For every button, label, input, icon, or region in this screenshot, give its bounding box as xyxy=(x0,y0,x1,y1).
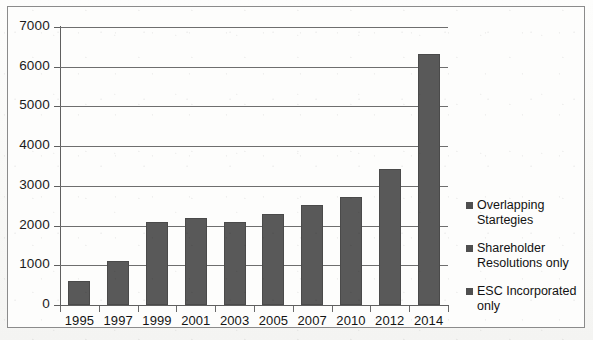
x-axis-label-1995: 1995 xyxy=(60,313,99,328)
x-axis-tick-4 xyxy=(215,306,216,312)
x-axis-tick-5 xyxy=(254,306,255,312)
x-axis-tick-8 xyxy=(370,306,371,312)
x-axis-tick-9 xyxy=(409,306,410,312)
bar-slot-2012 xyxy=(370,27,409,305)
legend-label-0: OverlappingStartegies xyxy=(477,198,544,227)
bar-slot-2005 xyxy=(254,27,293,305)
x-axis-label-1999: 1999 xyxy=(138,313,177,328)
bar-2001 xyxy=(185,218,207,305)
bar-slot-2001 xyxy=(176,27,215,305)
bar-slot-2014 xyxy=(409,27,448,305)
x-axis-label-2010: 2010 xyxy=(332,313,371,328)
x-axis-label-2012: 2012 xyxy=(370,313,409,328)
bar-2010 xyxy=(340,197,362,305)
x-axis-label-2005: 2005 xyxy=(254,313,293,328)
bar-2014 xyxy=(418,54,440,305)
y-axis-label-0: 0 xyxy=(4,296,50,311)
bar-2012 xyxy=(379,169,401,305)
x-axis-label-2003: 2003 xyxy=(215,313,254,328)
bar-slot-2003 xyxy=(215,27,254,305)
x-axis-tick-1 xyxy=(99,306,100,312)
bar-1995 xyxy=(68,281,90,305)
legend-swatch-icon-1 xyxy=(466,245,473,252)
legend-item-2: ESC Incorporatedonly xyxy=(466,284,582,313)
x-axis-ticks xyxy=(60,306,448,312)
bar-2005 xyxy=(262,214,284,305)
chart-legend: OverlappingStartegiesShareholderResoluti… xyxy=(466,198,582,327)
y-axis-label-7000: 7000 xyxy=(4,18,50,33)
bar-series xyxy=(60,27,448,305)
bar-slot-1997 xyxy=(99,27,138,305)
x-axis-tick-2 xyxy=(138,306,139,312)
x-axis-tick-0 xyxy=(60,306,61,312)
bar-slot-2010 xyxy=(332,27,371,305)
y-axis-label-3000: 3000 xyxy=(4,177,50,192)
y-axis-label-5000: 5000 xyxy=(4,97,50,112)
x-axis-tick-3 xyxy=(176,306,177,312)
y-axis-label-6000: 6000 xyxy=(4,58,50,73)
x-axis-tick-6 xyxy=(293,306,294,312)
legend-swatch-icon-2 xyxy=(466,288,473,295)
legend-label-2: ESC Incorporatedonly xyxy=(477,284,576,313)
bar-slot-1999 xyxy=(138,27,177,305)
x-axis-tick-10 xyxy=(448,306,449,312)
y-axis-label-1000: 1000 xyxy=(4,256,50,271)
legend-label-1: ShareholderResolutions only xyxy=(477,241,569,270)
x-axis-label-1997: 1997 xyxy=(99,313,138,328)
bar-2007 xyxy=(301,205,323,305)
legend-item-0: OverlappingStartegies xyxy=(466,198,582,227)
bar-1999 xyxy=(146,222,168,305)
x-axis-label-2014: 2014 xyxy=(409,313,448,328)
bar-2003 xyxy=(224,222,246,305)
x-axis-labels: 1995199719992001200320052007201020122014 xyxy=(60,313,448,328)
bar-slot-1995 xyxy=(60,27,99,305)
bar-1997 xyxy=(107,261,129,305)
y-axis-labels: 70006000500040003000200010000 xyxy=(0,0,50,340)
chart-page: 70006000500040003000200010000 1995199719… xyxy=(0,0,593,340)
legend-item-1: ShareholderResolutions only xyxy=(466,241,582,270)
plot-area xyxy=(60,27,448,305)
x-axis-label-2007: 2007 xyxy=(293,313,332,328)
x-axis-label-2001: 2001 xyxy=(176,313,215,328)
y-axis-label-2000: 2000 xyxy=(4,217,50,232)
y-axis-label-4000: 4000 xyxy=(4,137,50,152)
bar-slot-2007 xyxy=(293,27,332,305)
legend-swatch-icon-0 xyxy=(466,202,473,209)
x-axis-tick-7 xyxy=(332,306,333,312)
